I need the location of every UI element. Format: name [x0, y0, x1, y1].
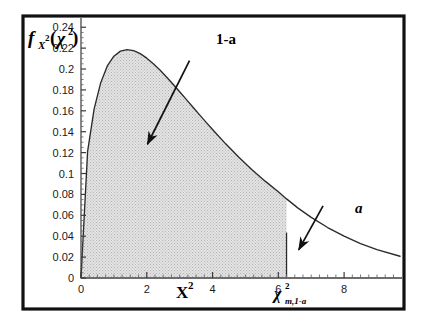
- critical-value-exponent: 2: [285, 281, 290, 291]
- y-tick-label: 0.18: [53, 84, 74, 96]
- chi-square-distribution-chart: 00.020.040.060.080.10.120.140.160.180.20…: [0, 0, 422, 325]
- y-tick-label: 0.12: [53, 147, 74, 159]
- y-tick-label: 0.2: [59, 63, 74, 75]
- annotation-one-minus-a-text: 1-a: [216, 31, 236, 47]
- annotation-a-text: a: [355, 200, 363, 216]
- y-tick-label: 0.14: [53, 126, 74, 138]
- x-tick-label: 0: [78, 283, 84, 295]
- y-tick-label: 0.04: [53, 230, 74, 242]
- x-tick-label: 2: [144, 283, 150, 295]
- critical-value-subscript: m,1-a: [285, 296, 307, 306]
- y-tick-label: 0: [68, 272, 74, 284]
- x-axis-title-exponent: 2: [188, 279, 194, 291]
- x-tick-label: 4: [209, 283, 215, 295]
- y-tick-label: 0.06: [53, 209, 74, 221]
- x-tick-label: 8: [341, 283, 347, 295]
- y-tick-label: 0.08: [53, 188, 74, 200]
- y-axis-title-paren-close: ): [72, 27, 78, 49]
- y-tick-label: 0.02: [53, 251, 74, 263]
- figure-container: 00.020.040.060.080.10.120.140.160.180.20…: [0, 0, 422, 325]
- y-tick-label: 0.1: [59, 168, 74, 180]
- y-axis-title-paren-open: (: [50, 27, 56, 49]
- critical-value-chi: χ: [272, 285, 282, 303]
- y-tick-label: 0.16: [53, 105, 74, 117]
